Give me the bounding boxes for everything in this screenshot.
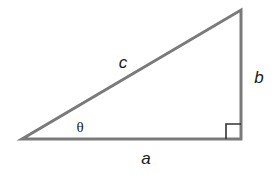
adjacent-side-label: a	[141, 150, 150, 167]
right-triangle-diagram: c b a θ	[0, 0, 280, 181]
hypotenuse-label: c	[119, 54, 128, 71]
opposite-side-label: b	[254, 69, 263, 86]
triangle-figure	[0, 0, 280, 181]
right-angle-marker-icon	[226, 124, 241, 139]
triangle-outline	[22, 10, 241, 139]
angle-theta-label: θ	[76, 120, 83, 135]
